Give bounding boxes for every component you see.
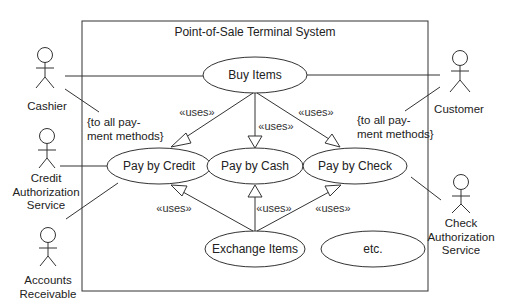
arrowhead-icon [248,136,262,148]
use-case-label-pay-by-credit: Pay by Credit [123,159,195,173]
actor-label-credit-auth: Credit Authorization Service [12,172,79,213]
actor-label-line: Service [12,199,79,213]
arrowhead-icon [171,185,187,196]
actor-label-check-auth: Check Authorization Service [427,217,494,258]
note-line: ment methods} [357,127,434,141]
use-case-label-exchange-items: Exchange Items [212,242,298,256]
use-case-label-pay-by-check: Pay by Check [318,159,392,173]
actor-label-line: Accounts [20,274,77,288]
actor-label-line: Service [427,244,494,258]
uses-label-buy-cash: «uses» [258,120,293,132]
system-title: Point-of-Sale Terminal System [174,26,335,39]
actor-credit-auth-figure [38,129,56,169]
actor-label-line: Authorization [427,231,494,245]
arrowhead-icon [325,134,340,147]
use-case-diagram-canvas [0,0,510,307]
actor-label-line: Check [427,217,494,231]
actor-label-line: Credit [12,172,79,186]
uses-label-exchange-cash: «uses» [256,202,291,214]
actor-label-line: Receivable [20,288,77,302]
actor-check-auth-figure [452,175,470,214]
actor-accounts-receivable-figure [39,228,57,267]
use-case-label-pay-by-cash: Pay by Cash [221,159,289,173]
note-line: ment methods} [87,129,164,143]
uses-relations-buy-items [171,93,340,148]
actor-cashier-figure [36,48,54,89]
cashier-constraint-note: {to all pay- ment methods} [87,115,164,143]
actor-label-customer: Customer [434,103,484,117]
uses-label-buy-credit: «uses» [179,106,214,118]
customer-constraint-note: {to all pay- ment methods} [357,113,434,141]
note-line: {to all pay- [87,115,164,129]
arrowhead-icon [171,133,191,147]
arrowhead-icon [248,185,262,197]
use-case-label-etc: etc. [363,242,382,256]
uses-label-buy-check: «uses» [298,106,333,118]
uses-label-exchange-check: «uses» [315,202,350,214]
uses-label-exchange-credit: «uses» [156,202,191,214]
actor-label-cashier: Cashier [27,100,67,114]
actor-label-line: Authorization [12,186,79,200]
actor-customer-figure [450,51,470,93]
actor-label-accounts-receivable: Accounts Receivable [20,274,77,301]
arrowhead-icon [325,185,341,196]
use-case-label-buy-items: Buy Items [228,68,281,82]
note-line: {to all pay- [357,113,434,127]
